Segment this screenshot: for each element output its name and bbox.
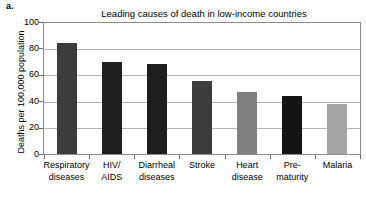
bar (237, 92, 257, 154)
x-tick-mark (360, 155, 361, 159)
y-tick-label: 0 (9, 150, 39, 159)
bar (147, 64, 167, 154)
x-axis-category-label-line: maturity (252, 172, 332, 184)
panel-letter-label: a. (6, 1, 14, 11)
y-tick-label: 20 (9, 123, 39, 132)
x-axis-category-label: Malaria (297, 160, 366, 172)
bar-slot (179, 23, 224, 154)
bar-slot (134, 23, 179, 154)
bar-slot (44, 23, 89, 154)
x-tick-mark (270, 155, 271, 159)
y-tick-label: 40 (9, 97, 39, 106)
bar (102, 62, 122, 154)
bar-slot (89, 23, 134, 154)
x-tick-mark (179, 155, 180, 159)
bar (57, 43, 77, 154)
bar-slot (225, 23, 270, 154)
x-tick-mark (225, 155, 226, 159)
x-tick-mark (89, 155, 90, 159)
x-axis-category-label-line: diseases (117, 172, 197, 184)
bar-series (44, 23, 360, 154)
y-axis-title: Deaths per 100,000 population (16, 17, 26, 167)
chart-title: Leading causes of death in low-income co… (45, 8, 363, 19)
figure-panel-a: a. Leading causes of death in low-income… (0, 0, 366, 206)
bar (282, 96, 302, 154)
y-tick-label: 100 (9, 18, 39, 27)
y-tick-label: 80 (9, 44, 39, 53)
x-axis-category-label-line: Malaria (297, 160, 366, 172)
bar-slot (270, 23, 315, 154)
y-tick-label: 60 (9, 70, 39, 79)
bar (327, 104, 347, 154)
x-tick-mark (315, 155, 316, 159)
x-tick-mark (44, 155, 45, 159)
bar-slot (315, 23, 360, 154)
x-tick-mark (134, 155, 135, 159)
bar (192, 81, 212, 154)
